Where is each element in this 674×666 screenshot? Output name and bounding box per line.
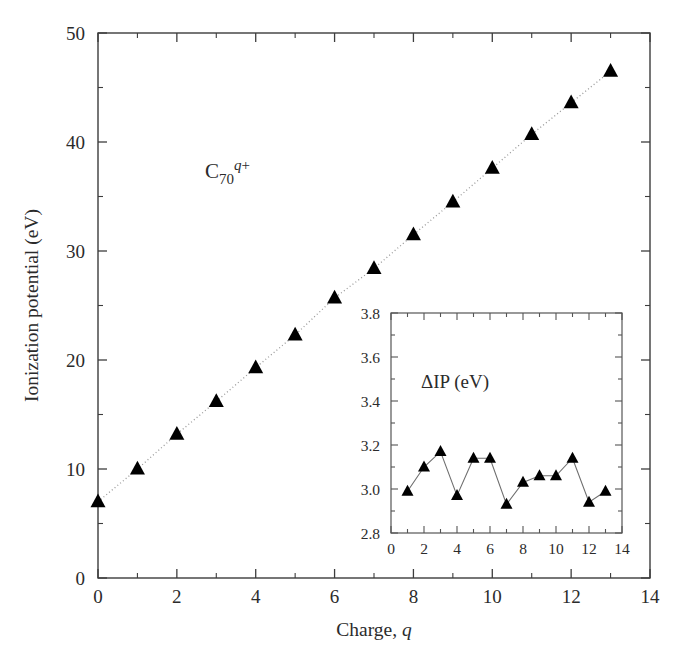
inset-x-tick-label-12: 12 bbox=[581, 540, 597, 557]
data-point-marker bbox=[288, 327, 303, 341]
inset-x-tick-label-8: 8 bbox=[519, 540, 527, 557]
scatter-chart-ionization-potential: 0246810121401020304050C70q+Charge, qIoni… bbox=[0, 0, 674, 666]
x-axis-tick-label-0: 0 bbox=[93, 586, 103, 607]
inset-x-tick-label-10: 10 bbox=[548, 540, 564, 557]
data-point-marker bbox=[367, 260, 382, 274]
x-axis-title: Charge, q bbox=[336, 619, 412, 640]
x-axis-tick-label-2: 2 bbox=[172, 586, 182, 607]
y-axis-title: Ionization potential (eV) bbox=[21, 209, 43, 402]
inset-x-tick-label-14: 14 bbox=[614, 540, 630, 557]
x-axis-tick-label-6: 6 bbox=[330, 586, 340, 607]
y-axis-tick-label-40: 40 bbox=[66, 132, 85, 153]
inset-y-tick-label-3.2: 3.2 bbox=[361, 437, 380, 454]
y-axis-tick-label-50: 50 bbox=[66, 23, 85, 44]
y-axis-tick-label-30: 30 bbox=[66, 241, 85, 262]
data-point-marker bbox=[130, 461, 145, 475]
data-point-marker bbox=[169, 426, 184, 440]
inset-y-tick-label-3.0: 3.0 bbox=[361, 481, 381, 498]
inset-y-tick-label-3.4: 3.4 bbox=[361, 393, 381, 410]
data-point-marker bbox=[603, 63, 618, 77]
inset-x-tick-label-4: 4 bbox=[453, 540, 461, 557]
x-axis-tick-label-12: 12 bbox=[562, 586, 581, 607]
x-axis-tick-label-10: 10 bbox=[483, 586, 502, 607]
x-axis-tick-label-4: 4 bbox=[251, 586, 261, 607]
inset-x-tick-label-6: 6 bbox=[486, 540, 494, 557]
data-point-marker bbox=[485, 160, 500, 174]
inset-annotation-label: ΔIP (eV) bbox=[421, 371, 489, 393]
data-point-marker bbox=[564, 95, 579, 109]
inset-y-tick-label-3.8: 3.8 bbox=[361, 305, 381, 322]
data-point-marker bbox=[209, 393, 224, 407]
y-axis-tick-label-10: 10 bbox=[66, 459, 85, 480]
main-annotation-label: C70q+ bbox=[205, 157, 250, 187]
data-point-marker bbox=[524, 126, 539, 140]
y-axis-tick-label-0: 0 bbox=[76, 568, 86, 589]
data-point-marker bbox=[327, 290, 342, 304]
inset-x-tick-label-2: 2 bbox=[420, 540, 428, 557]
data-point-marker bbox=[91, 494, 106, 508]
figure-container: 0246810121401020304050C70q+Charge, qIoni… bbox=[0, 0, 674, 666]
data-point-marker bbox=[248, 359, 263, 373]
y-axis-tick-label-20: 20 bbox=[66, 350, 85, 371]
x-axis-tick-label-8: 8 bbox=[409, 586, 419, 607]
data-point-marker bbox=[406, 226, 421, 240]
inset-y-tick-label-3.6: 3.6 bbox=[361, 349, 381, 366]
inset-y-tick-label-2.8: 2.8 bbox=[361, 525, 381, 542]
x-axis-tick-label-14: 14 bbox=[641, 586, 661, 607]
inset-x-tick-label-0: 0 bbox=[387, 540, 395, 557]
data-point-marker bbox=[445, 194, 460, 208]
